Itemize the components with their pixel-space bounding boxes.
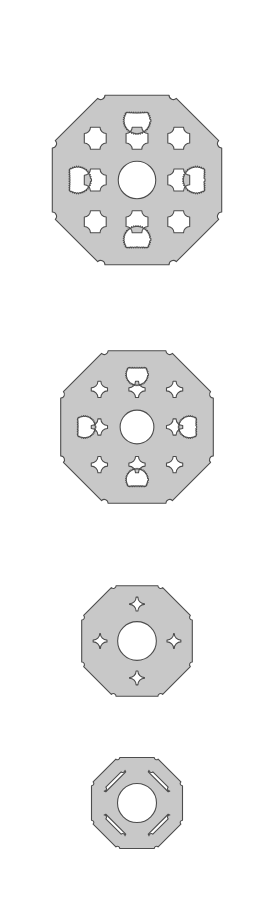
plate-size-4-layer	[0, 0, 273, 904]
figure-canvas	[0, 0, 273, 904]
plate-size-4	[92, 758, 183, 849]
